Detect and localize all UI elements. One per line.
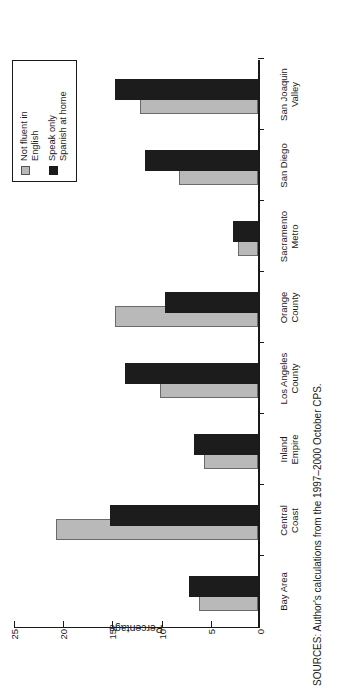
x-axis-tick-mark (258, 200, 264, 201)
page-rotation-wrapper: Not fluent in English Speak only Spanish… (0, 0, 346, 698)
bar-speak-only-spanish-at-home (165, 293, 258, 314)
y-axis-tick-label: 0 (255, 629, 266, 651)
x-axis-category-label: Los Angeles County (278, 338, 300, 420)
bar-group (14, 414, 258, 485)
x-axis-tick-mark (258, 413, 264, 414)
x-axis-tick-mark (258, 271, 264, 272)
x-axis-tick-mark (258, 555, 264, 556)
bar-speak-only-spanish-at-home (189, 577, 258, 598)
x-axis-category-label: San Joaquin Valley (278, 54, 300, 136)
x-axis-category-label: Orange County (278, 267, 300, 349)
x-axis-category-label: San Diego (278, 125, 289, 207)
bar-group (14, 556, 258, 627)
x-axis-category-label: Bay Area (278, 551, 289, 633)
x-axis-category-label: Inland Empire (278, 409, 300, 491)
bar-group (14, 130, 258, 201)
bar-speak-only-spanish-at-home (233, 222, 258, 243)
y-axis-title: Percentage (76, 623, 196, 635)
y-axis-tick-label: 25 (9, 629, 20, 651)
bar-group (14, 201, 258, 272)
x-axis-tick-mark (258, 484, 264, 485)
bar-speak-only-spanish-at-home (145, 151, 258, 172)
plot-area: 0510152025Bay AreaCentral CoastInland Em… (14, 60, 258, 627)
bar-group (14, 343, 258, 414)
chart-figure: Not fluent in English Speak only Spanish… (0, 0, 346, 698)
bar-group (14, 59, 258, 130)
x-axis-tick-mark (258, 129, 264, 130)
x-axis-category-label: Sacramento Metro (278, 196, 300, 278)
x-axis-tick-mark (258, 342, 264, 343)
y-axis-tick-label: 20 (58, 629, 69, 651)
bar-group (14, 485, 258, 556)
x-axis-category-label: Central Coast (278, 480, 300, 562)
y-axis-tick-label: 5 (205, 629, 216, 651)
x-axis-tick-mark (258, 58, 264, 59)
plot-frame: 0510152025Bay AreaCentral CoastInland Em… (14, 60, 260, 628)
bar-speak-only-spanish-at-home (115, 80, 258, 101)
bar-group (14, 272, 258, 343)
bar-speak-only-spanish-at-home (125, 364, 258, 385)
bar-speak-only-spanish-at-home (110, 506, 258, 527)
source-note: SOURCES: Author's calculations from the … (312, 383, 323, 686)
bar-speak-only-spanish-at-home (194, 435, 258, 456)
